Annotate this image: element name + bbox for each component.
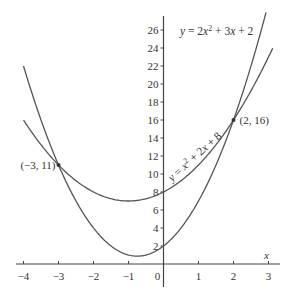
point-label: (2, 16) xyxy=(240,114,270,127)
x-tick-label: 1 xyxy=(196,270,202,282)
x-tick-label: −2 xyxy=(88,270,100,282)
y-tick-label: 18 xyxy=(148,96,160,108)
y-tick-label: 4 xyxy=(153,222,159,234)
y-tick-label: 22 xyxy=(148,60,159,72)
x-axis-label: x xyxy=(263,249,269,261)
y-tick-label: 14 xyxy=(148,132,160,144)
chart: −4−3−2−101232468101214161820222426 (−3, … xyxy=(0,0,288,297)
y-tick-label: 24 xyxy=(148,42,160,54)
y-tick-label: 26 xyxy=(148,24,160,36)
y-tick-label: 10 xyxy=(148,168,160,180)
point-label: (−3, 11) xyxy=(20,159,55,172)
intersection-dot xyxy=(232,118,236,122)
y-tick-label: 16 xyxy=(148,114,160,126)
x-tick-label: −1 xyxy=(123,270,135,282)
y-tick-label: 6 xyxy=(153,204,159,216)
curve1-label: y = 2x2 + 3x + 2 xyxy=(179,24,254,38)
x-tick-label: 0 xyxy=(155,270,161,282)
y-tick-label: 12 xyxy=(148,150,159,162)
x-tick-label: 2 xyxy=(231,270,237,282)
axes: −4−3−2−101232468101214161820222426 xyxy=(16,16,280,287)
chart-svg: −4−3−2−101232468101214161820222426 (−3, … xyxy=(0,0,288,297)
curve-1 xyxy=(24,12,267,256)
y-tick-label: 20 xyxy=(148,78,160,90)
x-tick-label: −3 xyxy=(53,270,65,282)
curve2-label: y = x2 + 2x + 8 xyxy=(164,128,225,184)
intersection-dot xyxy=(57,163,61,167)
x-tick-label: −4 xyxy=(18,270,30,282)
x-tick-label: 3 xyxy=(266,270,272,282)
